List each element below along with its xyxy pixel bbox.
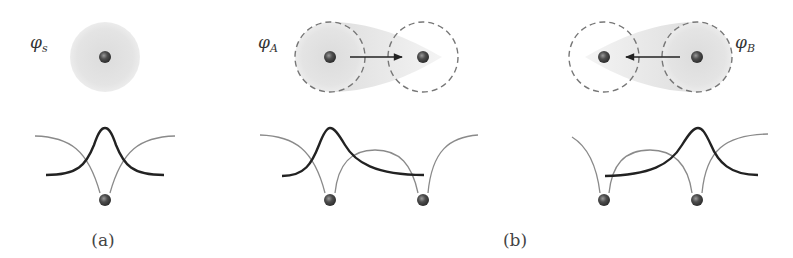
wavefunction-curve bbox=[282, 128, 424, 176]
atom-nucleus bbox=[99, 51, 111, 63]
wavefunction-curve bbox=[46, 128, 164, 175]
atom-B-bottom bbox=[417, 194, 429, 206]
atom-A bbox=[598, 51, 610, 63]
panel-a: φs (a) bbox=[30, 22, 175, 250]
panel-b-right: φB bbox=[569, 22, 768, 206]
orbital-label-phi-A: φA bbox=[258, 32, 278, 55]
orbital-label-phi-s: φs bbox=[30, 32, 48, 55]
s-orbital bbox=[70, 22, 140, 92]
panel-caption-a: (a) bbox=[91, 230, 114, 250]
orbital-label-phi-B: φB bbox=[735, 32, 755, 55]
orbital-overlap-diagram: φs (a) φA bbox=[0, 0, 793, 258]
panel-b-left: φA bbox=[258, 22, 478, 206]
panel-caption-b: (b) bbox=[503, 230, 527, 250]
atom-B bbox=[691, 51, 703, 63]
wavefunction-curve bbox=[605, 128, 758, 176]
atom-A-bottom bbox=[598, 194, 610, 206]
potential-well bbox=[572, 134, 768, 193]
atom-nucleus-bottom bbox=[99, 194, 111, 206]
atom-B bbox=[417, 51, 429, 63]
potential-well bbox=[260, 135, 478, 193]
atom-A-bottom bbox=[324, 194, 336, 206]
potential-well bbox=[35, 136, 175, 193]
atom-B-bottom bbox=[691, 194, 703, 206]
atom-A bbox=[324, 51, 336, 63]
